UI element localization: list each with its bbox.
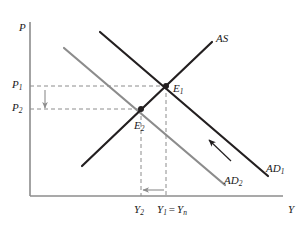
p1-label-text: P — [12, 78, 19, 90]
as-curve — [82, 42, 212, 166]
ad2-label-sub: 2 — [239, 179, 243, 188]
ad1-curve — [100, 32, 268, 176]
yn-label-sub: n — [183, 208, 187, 217]
y1-label-sub: 1 — [163, 208, 167, 217]
y1-equals-sign: = — [167, 203, 177, 215]
guide-lines — [30, 86, 166, 196]
ad1-label-sub: 1 — [281, 167, 285, 176]
e1-point-label: E1 — [173, 83, 183, 94]
p1-label-sub: 1 — [19, 83, 23, 92]
ad2-curve-label: AD2 — [224, 175, 242, 186]
y2-tick-label: Y2 — [134, 204, 144, 215]
e2-point-label: E2 — [134, 120, 144, 131]
p1-tick-label: P1 — [12, 79, 22, 90]
p2-label-sub: 2 — [19, 106, 23, 115]
e2-label-sub: 2 — [141, 124, 145, 133]
diagram-canvas — [0, 0, 304, 235]
ad-shift-arrow — [209, 140, 231, 161]
p2-label-text: P — [12, 101, 19, 113]
e1-point-dot — [163, 83, 169, 89]
e2-point-dot — [138, 106, 144, 112]
ad1-curve-label: AD1 — [266, 163, 284, 174]
annotation-arrows — [45, 90, 231, 190]
ad2-curve — [64, 48, 225, 185]
ad2-label-text: AD — [224, 174, 239, 186]
e1-label-text: E — [173, 82, 180, 94]
x-axis-label: Y — [288, 204, 294, 215]
e1-label-sub: 1 — [180, 87, 184, 96]
e2-label-text: E — [134, 119, 141, 131]
y-axis-label: P — [19, 22, 26, 33]
y2-label-sub: 2 — [140, 208, 144, 217]
p2-tick-label: P2 — [12, 102, 22, 113]
ad-as-diagram: P Y AS AD1 AD2 E1 E2 P1 P2 Y2 Y1=Yn — [0, 0, 304, 235]
ad1-label-text: AD — [266, 162, 281, 174]
y1-yn-tick-label: Y1=Yn — [157, 204, 187, 215]
as-curve-label: AS — [216, 33, 228, 44]
